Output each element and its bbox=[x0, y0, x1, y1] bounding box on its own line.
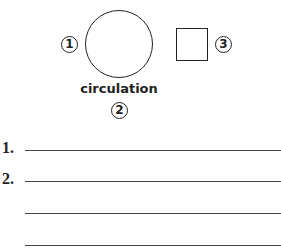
question-1-number: 1. bbox=[2, 139, 14, 157]
label-1-badge: 1 bbox=[61, 36, 78, 53]
question-2-number: 2. bbox=[2, 170, 14, 188]
answer-line-1[interactable] bbox=[25, 150, 281, 151]
label-3-badge: 3 bbox=[215, 36, 232, 53]
answer-line-3[interactable] bbox=[25, 213, 281, 214]
circle-caption: circulation bbox=[69, 81, 169, 96]
answer-line-4[interactable] bbox=[25, 245, 281, 246]
answer-line-2[interactable] bbox=[25, 181, 281, 182]
square-shape bbox=[176, 28, 208, 61]
label-2-badge: 2 bbox=[111, 102, 128, 119]
circle-shape bbox=[85, 10, 153, 78]
